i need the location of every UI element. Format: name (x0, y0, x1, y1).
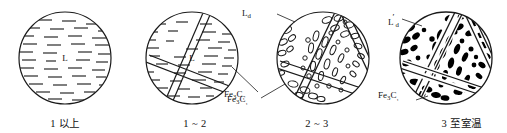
phase-label-cementite: Fe3C₁ (378, 90, 399, 101)
cementite-sub-1: ₁ (396, 94, 398, 101)
stage-4-caption: 3 至室温 (398, 118, 507, 130)
stage-1-group: L 1 以上 (0, 0, 130, 133)
stage-3-diagram (255, 0, 385, 133)
stage-4-group: L′d Fe3C₁ 3 至室温 (380, 0, 507, 133)
microstructure-figure: L 1 以上 (0, 0, 507, 133)
phase-label-liquid: L (62, 53, 68, 63)
ledeburite-sub-d: d (395, 21, 398, 28)
phase-label-liquid: L (189, 53, 195, 63)
stage-3-group: Ld Fe3C₁ 2 ~ 3 (255, 0, 385, 133)
stage-4-diagram (380, 0, 507, 133)
stage-2-group: L Fe3C₁ 1 ~ 2 (130, 0, 260, 133)
cementite-fe: Fe (378, 90, 387, 100)
cementite-sub-1: ₁ (245, 98, 247, 105)
stage-3-caption: 2 ~ 3 (252, 118, 382, 130)
phase-label-ledeburite: Ld (242, 8, 251, 19)
phase-label-transformed-ledeburite: L′d (388, 13, 399, 28)
stage-2-caption: 1 ~ 2 (130, 118, 260, 130)
phase-label-cementite: Fe3C₁ (227, 94, 248, 105)
leader-line-ledeburite (277, 14, 295, 22)
ledeburite-l: L (242, 8, 248, 18)
stage-1-caption: 1 以上 (0, 118, 130, 130)
leader-line-cementite (261, 84, 285, 98)
stage-1-diagram: L (0, 0, 130, 133)
cementite-sub-3: 3 (387, 94, 390, 101)
grain-boundary-circle (277, 12, 369, 104)
cementite-sub-3: 3 (236, 98, 239, 105)
cementite-fe: Fe (227, 94, 236, 104)
ledeburite-sub-d: d (248, 12, 251, 19)
